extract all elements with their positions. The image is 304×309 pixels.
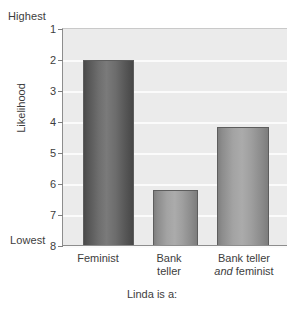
x-tick-label-line: and feminist [198,265,290,278]
y-tick-label: 6 [50,179,56,190]
y-axis-highest-label: Highest [8,10,46,22]
x-tick-label-line: Bank [136,252,202,265]
bar [83,60,134,246]
y-tick-label: 1 [50,24,56,35]
gridline [63,246,287,248]
x-axis-line [62,245,287,246]
bar [217,127,269,246]
y-tick-mark [58,184,63,185]
y-axis-title: Likelihood [15,63,27,153]
y-tick-mark [58,29,63,30]
y-tick-label: 3 [50,86,56,97]
x-tick-label-line: teller [136,265,202,278]
y-tick-mark [58,91,63,92]
y-tick-label: 5 [50,148,56,159]
y-axis-lowest-label: Lowest [10,234,45,246]
y-tick-mark [58,153,63,154]
y-tick-label: 2 [50,55,56,66]
x-tick-label: Bankteller [136,252,202,278]
x-tick-label-line: Bank teller [198,252,290,265]
y-tick-mark [58,215,63,216]
x-tick-label: Bank tellerand feminist [198,252,290,278]
likelihood-bar-chart: Highest Lowest Likelihood 12345678 Femin… [0,0,304,309]
y-tick-mark [58,246,63,247]
y-tick-label: 4 [50,117,56,128]
plot-area: 12345678 [62,28,287,246]
x-tick-label: Feminist [62,252,134,265]
x-axis-title: Linda is a: [0,288,304,300]
bar [153,190,198,246]
x-tick-label-emphasis: and [214,265,232,277]
y-tick-mark [58,60,63,61]
y-tick-label: 7 [50,210,56,221]
y-tick-mark [58,122,63,123]
y-tick-label: 8 [50,241,56,252]
x-tick-label-line: Feminist [62,252,134,265]
